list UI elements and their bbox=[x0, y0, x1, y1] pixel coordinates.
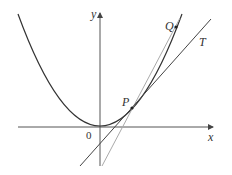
point-p-label: P bbox=[121, 95, 130, 109]
y-axis-label: y bbox=[90, 7, 97, 21]
x-axis-label: x bbox=[207, 130, 214, 144]
point-q bbox=[174, 25, 177, 28]
origin-label: 0 bbox=[86, 129, 92, 141]
tangent-diagram: y x 0 P Q T bbox=[0, 0, 232, 175]
point-q-label: Q bbox=[165, 19, 174, 33]
secant-line bbox=[102, 18, 180, 166]
tangent-label: T bbox=[199, 35, 207, 49]
point-p bbox=[130, 106, 133, 109]
